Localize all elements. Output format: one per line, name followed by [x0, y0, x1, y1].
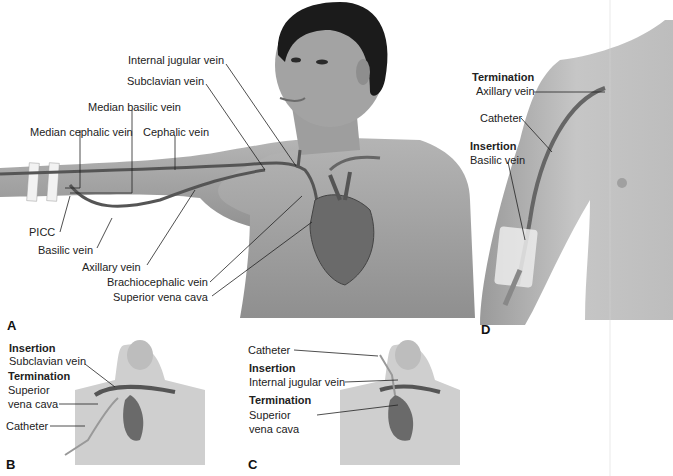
label-basilic-vein: Basilic vein [38, 244, 93, 257]
panel-letter-d: D [481, 322, 490, 337]
label-superior-vena-cava: Superior vena cava [113, 291, 208, 304]
label-axillary-vein: Axillary vein [82, 261, 141, 274]
panel-b-insertion-heading: Insertion [9, 342, 55, 355]
panel-b-termination-heading: Termination [8, 370, 70, 383]
panel-d-insertion-heading: Insertion [470, 140, 516, 153]
panel-c-insertion-value: Internal jugular vein [249, 376, 345, 389]
panel-d-catheter-label: Catheter [480, 112, 522, 125]
panel-c-termination-value-1: Superior [249, 409, 291, 422]
illustration [0, 0, 673, 476]
panel-c-catheter-label: Catheter [248, 344, 290, 357]
label-brachiocephalic-vein: Brachiocephalic vein [107, 276, 208, 289]
panel-c-termination-value-2: vena cava [249, 423, 299, 436]
panel-a-figure [0, 2, 475, 318]
panel-d-termination-value: Axillary vein [476, 85, 535, 98]
panel-letter-a: A [7, 318, 16, 333]
label-subclavian-vein: Subclavian vein [127, 75, 204, 88]
label-cephalic-vein: Cephalic vein [143, 126, 209, 139]
panel-c-insertion-heading: Insertion [249, 362, 295, 375]
panel-c-figure [294, 340, 460, 465]
label-median-basilic-vein: Median basilic vein [88, 101, 181, 114]
label-internal-jugular-vein: Internal jugular vein [128, 54, 224, 67]
panel-d-insertion-value: Basilic vein [470, 154, 525, 167]
panel-letter-c: C [248, 457, 257, 472]
panel-b-catheter-label: Catheter [6, 420, 48, 433]
panel-b-insertion-value: Subclavian vein [9, 355, 86, 368]
panel-b-termination-value-1: Superior [8, 384, 50, 397]
panel-letter-b: B [6, 457, 15, 472]
panel-b-termination-value-2: vena cava [8, 398, 58, 411]
panel-c-termination-heading: Termination [249, 394, 311, 407]
label-median-cephalic-vein: Median cephalic vein [30, 126, 133, 139]
panel-d-termination-heading: Termination [472, 71, 534, 84]
label-picc: PICC [29, 226, 55, 239]
